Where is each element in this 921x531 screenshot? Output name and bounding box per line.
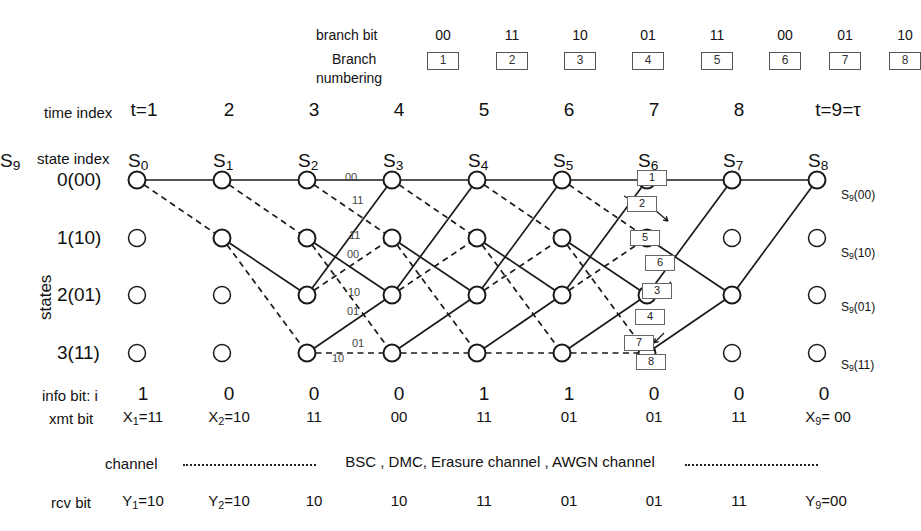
node-label-subscript: 7 [736,158,744,173]
xmt-bit-value: 01 [561,408,578,425]
node-label-letter: S [383,150,396,171]
stage3-bits-state1-upper: 11 [349,229,360,241]
callout-box-8: 8 [636,354,666,370]
rcv-bit-label: rcv bit [51,494,91,511]
xmt-bit-value: 11 [731,408,747,425]
xmt-bit-value: X2=10 [208,408,249,427]
trellis-edge-input0 [484,300,555,348]
trellis-node [299,345,316,362]
xmt-bit-value: X1=11 [123,408,163,427]
callout-box-1: 1 [637,170,667,186]
callout-arrow [656,211,668,221]
trellis-node-label-s5: S5 [553,150,573,173]
trellis-node-label-s1: S1 [213,150,233,173]
trellis-edge-input1 [397,245,472,346]
callout-box-5: 5 [630,230,660,246]
stage3-bits-state3-upper: 01 [352,337,364,349]
trellis-node [384,230,401,247]
stage3-bits-state2-lower: 01 [347,305,359,317]
trellis-node [809,345,826,362]
final-state-label-01: S9(01) [841,300,875,315]
stage3-bits-state0-upper: 00 [345,171,357,183]
trellis-node [554,230,571,247]
info-bit-value: 1 [564,383,575,405]
trellis-node [724,345,741,362]
xmt-bit-value: 11 [306,408,322,425]
info-bit-label: info bit: i [42,387,98,404]
trellis-node [809,172,826,189]
node-label-subscript: 2 [311,158,319,173]
info-bit-value: 0 [734,383,745,405]
trellis-node-label-s0: S0 [128,150,148,173]
node-label-letter: S [298,150,311,171]
trellis-node [214,230,231,247]
trellis-node-label-s8: S8 [808,150,828,173]
trellis-edge-input0 [737,187,812,288]
trellis-edge-input1 [399,185,470,233]
xmt-bit-value: 01 [646,408,663,425]
trellis-edge-input0 [229,243,300,291]
info-bit-value: 1 [138,383,149,405]
trellis-node [469,345,486,362]
final-state-text: S9(10) [841,246,875,260]
callout-box-2: 2 [627,196,657,212]
final-state-text: S9(01) [841,300,875,314]
node-label-letter: S [808,150,821,171]
info-bit-value: 1 [479,383,490,405]
trellis-node [469,230,486,247]
rcv-bit-value: 01 [561,492,578,509]
trellis-node-label-s7: S7 [723,150,743,173]
node-label-letter: S [128,150,141,171]
trellis-node [129,345,146,362]
node-label-letter: S [0,150,13,171]
rcv-bit-value: 10 [306,492,323,509]
trellis-node [129,287,146,304]
trellis-edge-input1 [484,185,555,233]
node-label-letter: S [468,150,481,171]
final-state-label-00: S9(00) [841,188,875,203]
trellis-node [469,172,486,189]
node-label-letter: S [213,150,226,171]
trellis-edge-input1 [144,185,215,233]
trellis-node [214,172,231,189]
trellis-node [299,230,316,247]
trellis-node [724,172,741,189]
stage3-bits-state2-upper: 10 [348,286,360,298]
trellis-node [809,230,826,247]
node-label-subscript: 4 [481,158,489,173]
trellis-edge-input1 [567,245,642,346]
rcv-bit-value: Y1=10 [122,492,163,511]
trellis-node [384,172,401,189]
info-bit-value: 0 [649,383,660,405]
xmt-bit-value: X9= 00 [805,408,851,427]
trellis-node [299,172,316,189]
channel-dash-right [685,464,818,466]
trellis-edge-input1 [227,245,302,346]
trellis-node [129,230,146,247]
xmt-bit-label: xmt bit [49,410,93,427]
callout-box-4: 4 [635,309,665,325]
callout-box-3: 3 [642,283,672,299]
callout-box-6: 6 [645,255,675,271]
node-label-subscript: 9 [13,158,21,173]
trellis-node [384,345,401,362]
node-label-subscript: 1 [226,158,234,173]
info-bit-value: 0 [309,383,320,405]
trellis-edge-input1 [314,185,385,233]
trellis-edges [144,180,812,353]
xmt-bit-value: 11 [476,408,492,425]
trellis-node [724,287,741,304]
trellis-edge-input0 [397,187,472,288]
stage3-bits-state0-lower: 11 [352,194,363,206]
trellis-node [214,345,231,362]
trellis-node [554,345,571,362]
trellis-node [299,287,316,304]
trellis-edge-input0 [482,187,557,288]
trellis-node [809,287,826,304]
trellis-node [724,230,741,247]
trellis-node [384,287,401,304]
rcv-bit-value: Y9=00 [805,492,846,511]
rcv-bit-value: Y2=10 [208,492,249,511]
